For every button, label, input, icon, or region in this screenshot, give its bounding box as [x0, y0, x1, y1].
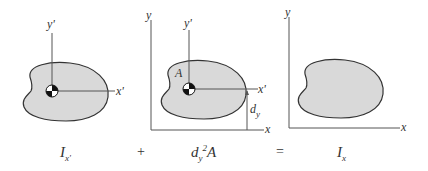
x-prime-label: x' [115, 84, 124, 98]
parallel-axis-diagram: y' x' y x y' x' A dy y x Ix' + dy2A = Ix [0, 0, 428, 171]
y-prime-label: y' [46, 17, 55, 31]
panel-transfer: y x y' x' A dy [145, 8, 271, 136]
equals-operator: = [276, 144, 284, 159]
area-shape [23, 63, 108, 121]
distance-label: dy [250, 102, 260, 119]
area-shape [161, 61, 246, 119]
x-prime-label: x' [257, 82, 266, 96]
y-prime-label: y' [183, 16, 192, 30]
caption-centroidal-moment: Ix' [59, 144, 72, 163]
centroid-icon [183, 83, 195, 95]
x-label: x [264, 122, 271, 136]
panel-centroidal: y' x' [23, 17, 124, 121]
plus-operator: + [137, 144, 145, 159]
y-label: y [284, 5, 291, 19]
area-shape [298, 60, 383, 118]
panel-result: y x [284, 5, 407, 134]
y-label: y [145, 8, 152, 22]
centroid-icon [46, 85, 58, 97]
x-label: x [400, 120, 407, 134]
area-label: A [174, 66, 183, 80]
caption-total-moment: Ix [336, 144, 346, 163]
caption-transfer-term: dy2A [191, 143, 217, 163]
